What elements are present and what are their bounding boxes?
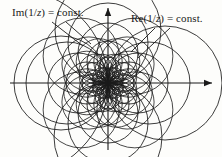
label-leader-line <box>66 22 91 44</box>
label-re-const: Re(1/z) = const. <box>131 12 203 24</box>
vertical-axis-arrowhead <box>105 8 111 16</box>
label-im-const: Im(1/z) = const. <box>12 6 84 18</box>
label-re-prefix: Re(1/ <box>131 12 156 24</box>
label-leader-line <box>138 28 170 58</box>
label-im-suffix: ) = const. <box>41 6 83 18</box>
horizontal-axis-arrowhead <box>204 80 212 86</box>
label-re-suffix: ) = const. <box>160 12 202 24</box>
conformal-map-figure: Im(1/z) = const. Re(1/z) = const. <box>0 0 222 157</box>
label-im-prefix: Im(1/ <box>12 6 37 18</box>
